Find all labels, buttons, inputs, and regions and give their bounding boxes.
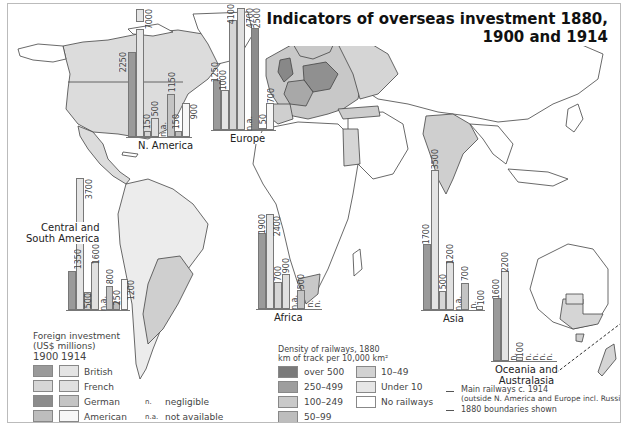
title-line-1: Indicators of overseas investment 1880, xyxy=(267,10,608,28)
value-label: 1200 xyxy=(446,244,455,264)
bar-british-1900 xyxy=(258,233,266,309)
value-label: 900 xyxy=(190,104,199,119)
bar-french-1914 xyxy=(151,118,159,137)
swatch-rail-50-99 xyxy=(278,411,298,423)
value-label: 1000 xyxy=(219,70,228,90)
legend-label-boundaries: 1880 boundaries shown xyxy=(461,405,557,415)
legend-label-100-249: 100–249 xyxy=(304,397,343,407)
value-label: 700 xyxy=(461,266,470,281)
title-line-2: 1900 and 1914 xyxy=(267,28,608,46)
value-label: 1200 xyxy=(127,280,136,300)
bar-british-1900 xyxy=(493,298,501,361)
swatch-french-1914 xyxy=(59,380,79,392)
swatch-american-1900 xyxy=(33,410,53,422)
legend-subheading: (US$ millions) xyxy=(33,341,96,351)
value-label: 900 xyxy=(282,258,291,273)
value-label: n. xyxy=(545,353,554,361)
legend-railway-density: Density of railways, 1880 km of track pe… xyxy=(276,344,446,423)
abbr-desc-negligible: negligible xyxy=(165,397,209,407)
value-label: 500 xyxy=(84,293,93,308)
region-label-asia: Asia xyxy=(443,313,464,324)
value-label: 7000 xyxy=(145,9,154,29)
abbr-desc-not-available: not available xyxy=(165,412,223,422)
value-label: 2400 xyxy=(273,216,282,236)
legend-label-250-499: 250–499 xyxy=(304,382,343,392)
value-label: 1150 xyxy=(168,72,177,92)
bar-british-1914 xyxy=(221,90,229,130)
value-label: 500 xyxy=(439,274,448,289)
map-frame: Indicators of overseas investment 1880, … xyxy=(7,3,621,423)
swatch-german-1900 xyxy=(33,395,53,407)
swatch-rail-none xyxy=(356,396,376,408)
bar-british-1900 xyxy=(128,52,136,137)
bar-french-1900 xyxy=(439,291,446,310)
swatch-rail-under-10 xyxy=(356,381,376,393)
value-label: n.a. xyxy=(245,116,254,131)
value-label: 1600 xyxy=(492,279,501,299)
bar-british-1900 xyxy=(68,271,76,310)
value-label: 800 xyxy=(106,269,115,284)
swatch-rail-100-249 xyxy=(278,396,298,408)
value-label: 2200 xyxy=(501,252,510,272)
value-label: 100 xyxy=(477,290,486,305)
swatch-american-1914 xyxy=(59,410,79,422)
swatch-rail-10-49 xyxy=(356,366,376,378)
region-label-north-america: N. America xyxy=(138,140,193,151)
value-label: 1600 xyxy=(92,244,101,264)
value-label: 700 xyxy=(267,88,276,103)
region-label-south-america: Central and South America xyxy=(26,222,100,244)
value-label: 150 xyxy=(143,114,152,129)
region-label-oceania: Oceania and Australasia xyxy=(495,364,558,386)
abbr-key-not-available: n.a. xyxy=(145,412,158,422)
bar-french-1900 xyxy=(229,20,237,130)
legend-label-over-500: over 500 xyxy=(304,367,344,377)
value-label: 250 xyxy=(113,290,122,305)
legend-label-british: British xyxy=(84,367,113,377)
bar-french-1914 xyxy=(282,274,290,309)
legend-label-french: French xyxy=(84,382,114,392)
value-label: n.a. xyxy=(99,296,108,311)
swatch-french-1900 xyxy=(33,380,53,392)
legend-label-10-49: 10–49 xyxy=(381,367,408,377)
bar-french-1914 xyxy=(237,8,245,130)
legend-label-german: German xyxy=(84,397,120,407)
legend-line-symbols: Main railways c. 1914 (outside N. Americ… xyxy=(446,384,621,423)
value-label: 500 xyxy=(151,101,160,116)
bar-british-1914 xyxy=(431,170,439,310)
boundary-line-symbol xyxy=(446,410,454,411)
railway-line-symbol xyxy=(446,391,454,392)
swatch-german-1914 xyxy=(59,395,79,407)
bar-british-1900 xyxy=(423,244,431,310)
value-label: 50 xyxy=(259,114,268,124)
value-label: 1700 xyxy=(422,224,431,244)
bar-french-1900 xyxy=(274,282,282,309)
bar-american-1914 xyxy=(182,103,190,137)
value-label: n. xyxy=(313,300,322,308)
region-label-europe: Europe xyxy=(230,133,265,144)
value-label: n.a. xyxy=(290,295,299,310)
legend-label-50-99: 50–99 xyxy=(304,412,331,422)
bar-british-1914 xyxy=(501,271,509,361)
legend-foreign-investment: Foreign investment (US$ millions) 1900 1… xyxy=(8,329,198,423)
swatch-british-1914 xyxy=(59,365,79,377)
legend-year-1900: 1900 xyxy=(33,352,58,362)
railway-legend-subheading: km of track per 10,000 km² xyxy=(278,354,388,364)
bar-german-1900 xyxy=(251,28,259,130)
legend-label-american: American xyxy=(84,412,127,422)
region-label-africa: Africa xyxy=(274,312,303,323)
legend-year-1914: 1914 xyxy=(61,352,86,362)
swatch-rail-over-500 xyxy=(278,366,298,378)
value-label: 2250 xyxy=(119,52,128,72)
value-label: 4100 xyxy=(227,4,236,24)
value-label: 3700 xyxy=(85,179,94,199)
value-label: 500 xyxy=(297,274,306,289)
legend-label-railways-note: (outside N. America and Europe incl. Rus… xyxy=(461,394,621,404)
legend-label-no-railways: No railways xyxy=(381,397,433,407)
value-label: 2500 xyxy=(253,8,262,28)
value-label: n.a. xyxy=(454,296,463,311)
map-title: Indicators of overseas investment 1880, … xyxy=(265,10,610,46)
bar-british-1914-overflow xyxy=(136,9,144,22)
value-label: 1350 xyxy=(74,249,83,269)
value-label: 150 xyxy=(172,114,181,129)
bar-british-1914 xyxy=(76,178,84,310)
